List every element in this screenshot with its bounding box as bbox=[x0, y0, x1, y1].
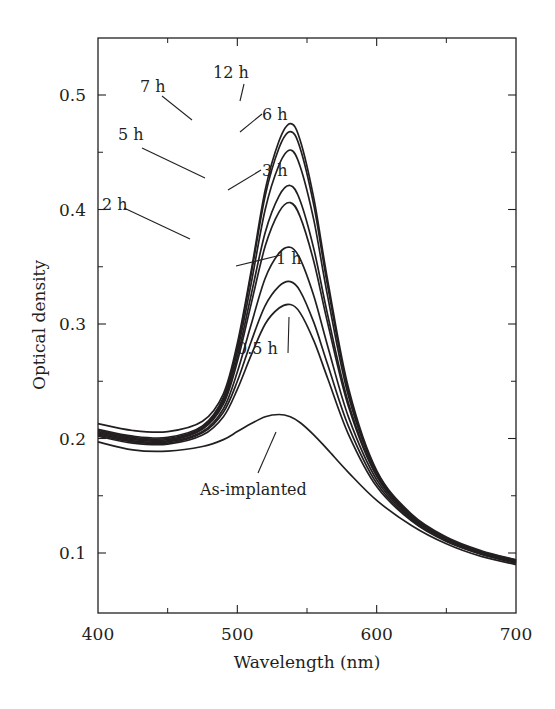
leader-line-3-h bbox=[228, 170, 261, 190]
annotation-6-h: 6 h bbox=[262, 105, 288, 124]
series-line-3-h bbox=[98, 202, 516, 561]
annotation-3-h: 3 h bbox=[262, 161, 288, 180]
series-line-1-h bbox=[98, 281, 516, 562]
series-line-7-h bbox=[98, 132, 516, 560]
y-tick-label: 0.1 bbox=[59, 543, 86, 563]
leader-line-as-implanted bbox=[258, 432, 276, 473]
y-tick-label: 0.2 bbox=[59, 429, 86, 449]
y-tick-label: 0.3 bbox=[59, 314, 86, 334]
annotation-1-h: 1 h bbox=[276, 249, 302, 268]
chart: 4005006007000.10.20.30.40.5 12 h7 h6 h5 … bbox=[0, 0, 555, 709]
x-tick-label: 700 bbox=[500, 624, 532, 644]
y-tick-label: 0.4 bbox=[59, 200, 86, 220]
leader-line-12-h bbox=[240, 84, 244, 101]
annotation-0-5-h: 0.5 h bbox=[237, 339, 278, 358]
series-line-2-h bbox=[98, 247, 516, 562]
annotation-5-h: 5 h bbox=[118, 125, 144, 144]
series-line-5-h bbox=[98, 185, 516, 561]
y-axis-title: Optical density bbox=[29, 260, 49, 390]
series-line-0-5-h bbox=[98, 304, 516, 563]
series-line-6-h bbox=[98, 150, 516, 561]
annotation-7-h: 7 h bbox=[140, 77, 166, 96]
leader-line-6-h bbox=[240, 114, 262, 132]
leader-line-7-h bbox=[162, 96, 192, 120]
data-series bbox=[98, 124, 516, 565]
y-tick-label: 0.5 bbox=[59, 85, 86, 105]
x-axis-title: Wavelength (nm) bbox=[234, 652, 381, 672]
leader-line-5-h bbox=[142, 148, 205, 178]
axis-tick-labels: 4005006007000.10.20.30.40.5 bbox=[59, 85, 532, 644]
annotation-as-implanted: As-implanted bbox=[199, 480, 307, 499]
leader-line-0-5-h bbox=[288, 317, 289, 353]
annotation-12-h: 12 h bbox=[213, 63, 249, 82]
x-tick-label: 400 bbox=[82, 624, 114, 644]
leader-line-2-h bbox=[124, 208, 190, 239]
x-tick-label: 600 bbox=[360, 624, 392, 644]
annotation-2-h: 2 h bbox=[102, 195, 128, 214]
x-tick-label: 500 bbox=[221, 624, 253, 644]
